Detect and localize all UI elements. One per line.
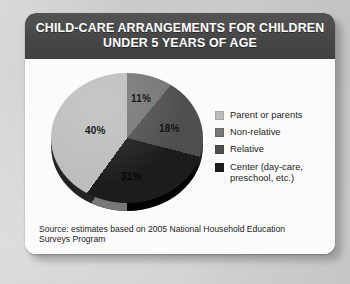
chart-header: CHILD-CARE ARRANGEMENTS FOR CHILDREN UND…	[25, 13, 335, 59]
pie-chart: 11% 18% 31% 40%	[47, 65, 207, 217]
chart-card: CHILD-CARE ARRANGEMENTS FOR CHILDREN UND…	[25, 13, 335, 254]
pie-label-relative: 18%	[159, 123, 180, 134]
legend-label: Non-relative	[230, 126, 281, 137]
pie-label-parent-or-parents: 40%	[85, 125, 106, 136]
pie-label-non-relative: 11%	[131, 93, 151, 104]
pie-label-center: 31%	[121, 171, 142, 182]
legend-swatch-icon	[215, 145, 224, 154]
legend-label: Relative	[230, 143, 264, 154]
chart-title-line-1: CHILD-CARE ARRANGEMENTS FOR CHILDREN	[36, 21, 325, 35]
chart-legend: Parent or parents Non-relative Relative …	[215, 109, 327, 189]
legend-item-relative: Relative	[215, 143, 327, 154]
source-note: Source: estimates based on 2005 National…	[39, 224, 289, 245]
legend-label: Center (day-care, preschool, etc.)	[230, 161, 327, 183]
legend-item-non-relative: Non-relative	[215, 126, 327, 137]
legend-swatch-icon	[215, 128, 224, 137]
legend-swatch-icon	[215, 163, 224, 172]
legend-item-parent-or-parents: Parent or parents	[215, 109, 327, 120]
legend-item-center: Center (day-care, preschool, etc.)	[215, 161, 327, 183]
legend-label: Parent or parents	[230, 109, 302, 120]
pie-face	[51, 73, 203, 203]
legend-swatch-icon	[215, 111, 224, 120]
chart-title-line-2: UNDER 5 YEARS OF AGE	[103, 36, 257, 50]
chart-body: 11% 18% 31% 40% Parent or parents Non-re…	[25, 59, 335, 254]
page-title: CHILD-CARE ARRANGEMENTS FOR CHILDREN UND…	[36, 21, 325, 50]
